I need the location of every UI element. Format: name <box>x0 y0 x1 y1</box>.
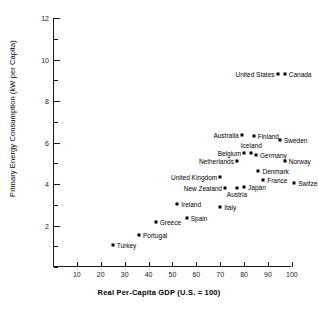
data-point-label: Denmark <box>262 167 288 174</box>
x-tick-label-80: 80 <box>240 271 248 278</box>
data-point-label: Ireland <box>181 200 201 207</box>
scatter-chart-figure: 24681012 102030405060708090100 TurkeyPor… <box>0 0 318 310</box>
y-tick-label-12: 12 <box>41 15 49 22</box>
data-point <box>278 139 281 142</box>
y-tick-label-10: 10 <box>41 56 49 63</box>
data-point-label: Portugal <box>143 231 167 238</box>
data-point-label: Greece <box>160 219 181 226</box>
data-point <box>243 186 246 189</box>
x-tick-label-50: 50 <box>169 271 177 278</box>
data-point <box>235 187 238 190</box>
x-tick-40 <box>149 262 150 267</box>
y-tick-12 <box>54 18 60 19</box>
data-point <box>235 160 238 163</box>
x-tick-60 <box>196 262 197 267</box>
data-point <box>250 151 253 154</box>
x-tick-90 <box>268 262 269 267</box>
y-tick-11 <box>54 39 58 40</box>
data-point-label: Turkey <box>117 242 137 249</box>
y-tick-7 <box>54 122 58 123</box>
y-tick-6 <box>54 143 60 144</box>
data-point-label: United Kingdom <box>171 173 217 180</box>
data-point-label: Austria <box>227 191 247 198</box>
x-tick-label-70: 70 <box>216 271 224 278</box>
data-point-label: Sweden <box>284 137 308 144</box>
x-tick-label-20: 20 <box>97 271 105 278</box>
data-point <box>111 244 114 247</box>
y-tick-1 <box>54 246 58 247</box>
data-point <box>176 202 179 205</box>
data-point-label: United States <box>236 71 275 78</box>
data-point <box>154 221 157 224</box>
data-point-label: Netherlands <box>199 158 234 165</box>
data-point <box>283 73 286 76</box>
y-tick-0 <box>54 267 58 268</box>
y-tick-10 <box>54 60 60 61</box>
data-point-label: Switzerland <box>298 179 318 186</box>
y-tick-label-6: 6 <box>45 139 49 146</box>
x-tick-100 <box>292 262 293 267</box>
data-point-label: Italy <box>224 203 236 210</box>
y-tick-8 <box>54 101 60 102</box>
y-tick-2 <box>54 226 60 227</box>
y-tick-label-8: 8 <box>45 98 49 105</box>
data-point <box>224 187 227 190</box>
data-point-label: Canada <box>289 71 312 78</box>
y-axis-title: Primary Energy Consumption (kW per Capit… <box>8 0 17 249</box>
x-tick-label-10: 10 <box>73 271 81 278</box>
data-point <box>257 169 260 172</box>
data-point-label: Finland <box>258 133 279 140</box>
data-point-label: Australia <box>213 132 238 139</box>
plot-area: 24681012 102030405060708090100 TurkeyPor… <box>53 18 311 267</box>
data-point <box>262 178 265 181</box>
y-tick-5 <box>54 163 58 164</box>
data-point <box>219 175 222 178</box>
data-point <box>255 153 258 156</box>
data-point-label: Norway <box>289 158 311 165</box>
x-tick-80 <box>244 262 245 267</box>
data-point <box>243 151 246 154</box>
data-point <box>252 135 255 138</box>
data-point <box>185 217 188 220</box>
x-tick-label-40: 40 <box>145 271 153 278</box>
x-tick-label-100: 100 <box>286 271 298 278</box>
y-tick-label-4: 4 <box>45 181 49 188</box>
data-point-label: New Zealand <box>184 185 222 192</box>
x-tick-10 <box>77 262 78 267</box>
x-tick-20 <box>101 262 102 267</box>
data-point <box>240 134 243 137</box>
data-point-label: Spain <box>191 215 208 222</box>
y-tick-label-2: 2 <box>45 222 49 229</box>
y-tick-9 <box>54 80 58 81</box>
x-axis-title: Real Per-Capita GDP (U.S. = 100) <box>0 288 318 297</box>
data-point <box>276 73 279 76</box>
data-point-label: Belgium <box>218 149 241 156</box>
data-point-label: Japan <box>248 184 266 191</box>
x-tick-label-60: 60 <box>192 271 200 278</box>
data-point-label: Iceland <box>241 142 262 149</box>
data-point-label: France <box>267 176 287 183</box>
data-point <box>293 181 296 184</box>
data-point-label: Germany <box>260 151 287 158</box>
y-tick-4 <box>54 184 60 185</box>
x-tick-70 <box>220 262 221 267</box>
y-tick-3 <box>54 205 58 206</box>
data-point <box>283 160 286 163</box>
x-tick-label-90: 90 <box>264 271 272 278</box>
x-tick-50 <box>172 262 173 267</box>
x-tick-30 <box>125 262 126 267</box>
x-tick-label-30: 30 <box>121 271 129 278</box>
data-point <box>219 205 222 208</box>
data-point <box>138 233 141 236</box>
